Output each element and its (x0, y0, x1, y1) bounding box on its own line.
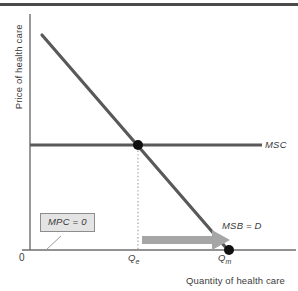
msb-curve-label: MSB = D (222, 221, 262, 231)
efficient-equilibrium-marker (133, 140, 143, 150)
x-tick-label-qm: Qm (218, 253, 231, 265)
x-tick-qm-subscript: m (225, 258, 231, 265)
origin-label: 0 (19, 253, 25, 263)
mpc-callout-leader-line (46, 236, 61, 250)
y-axis-title: Price of health care (14, 12, 24, 122)
x-axis-title: Quantity of health care (186, 276, 285, 286)
chart-plot-area (0, 0, 298, 291)
mpc-callout-label: MPC = 0 (40, 213, 95, 232)
overconsumption-arrow (142, 230, 230, 250)
x-tick-label-qe: Qe (128, 253, 139, 265)
x-tick-qe-subscript: e (135, 258, 139, 265)
health-care-externality-chart: Price of health care Quantity of health … (0, 0, 298, 291)
msc-curve-label: MSC (265, 140, 287, 150)
